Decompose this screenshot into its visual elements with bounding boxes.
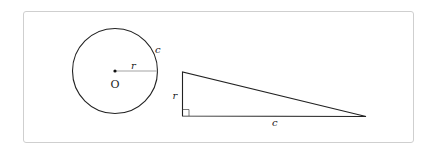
circle-figure: O r c [73, 29, 162, 114]
circumference-label: c [155, 44, 161, 55]
radius-label: r [131, 60, 137, 71]
center-label: O [111, 78, 120, 91]
center-point [113, 69, 116, 72]
right-angle-marker [183, 110, 190, 117]
triangle-height-label: r [173, 90, 179, 101]
triangle-base-label: c [272, 117, 278, 128]
geometry-diagram: O r c r c [0, 0, 436, 156]
right-triangle [183, 72, 367, 117]
triangle-figure: r c [173, 72, 367, 128]
